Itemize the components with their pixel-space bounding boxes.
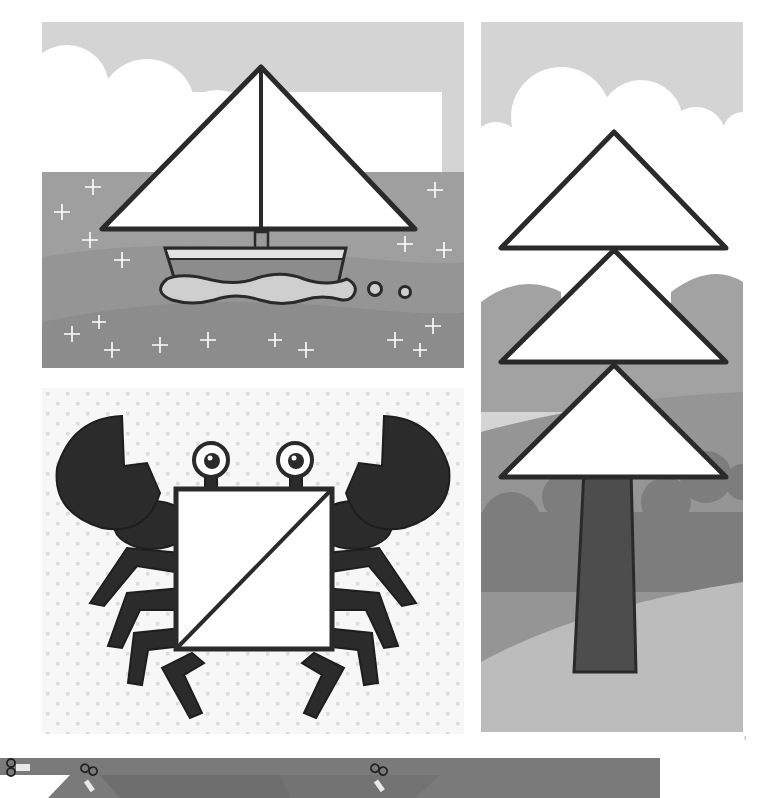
left-eye [194, 443, 228, 477]
tree-illustration [481, 22, 743, 732]
body-square [176, 489, 332, 649]
sailboat-illustration [42, 22, 464, 368]
crab-panel [42, 388, 464, 734]
crab-illustration [42, 388, 464, 734]
right-eye [278, 443, 312, 477]
page-number-mark: ı [744, 733, 746, 742]
cut-out-strip [0, 757, 660, 798]
bubble [369, 283, 382, 296]
sailboat-panel [42, 22, 464, 368]
bubble [400, 287, 411, 298]
tree-panel [481, 22, 743, 732]
trunk-trapezoid [574, 470, 636, 672]
